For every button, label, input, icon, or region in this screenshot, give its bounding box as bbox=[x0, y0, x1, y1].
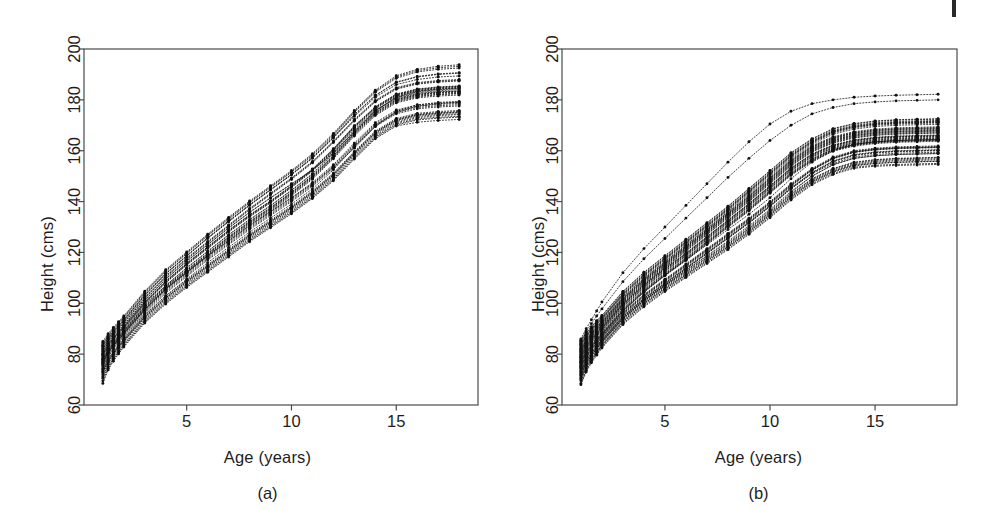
svg-text:10: 10 bbox=[282, 412, 300, 430]
panel-b-y-axis-label: Height (cms) bbox=[529, 216, 548, 312]
svg-text:100: 100 bbox=[65, 290, 83, 318]
panel-a-plot: 608010012014016018020051015 bbox=[0, 0, 491, 524]
series-group bbox=[579, 93, 939, 386]
panel-a-x-axis-label: Age (years) bbox=[0, 448, 491, 467]
svg-text:80: 80 bbox=[543, 345, 561, 363]
panel-a: 608010012014016018020051015 Height (cms)… bbox=[0, 0, 491, 524]
svg-text:200: 200 bbox=[543, 35, 561, 63]
panel-b-plot: 608010012014016018020051015 bbox=[491, 0, 983, 524]
svg-text:200: 200 bbox=[65, 35, 83, 63]
series-group bbox=[101, 63, 460, 385]
svg-text:60: 60 bbox=[65, 396, 83, 414]
svg-text:5: 5 bbox=[660, 412, 669, 430]
svg-text:120: 120 bbox=[65, 239, 83, 267]
svg-text:15: 15 bbox=[866, 412, 884, 430]
svg-text:80: 80 bbox=[65, 345, 83, 363]
panel-b-caption: (b) bbox=[491, 484, 982, 503]
svg-text:160: 160 bbox=[543, 137, 561, 165]
growth-curves-figure: 608010012014016018020051015 Height (cms)… bbox=[0, 0, 983, 524]
panel-b-x-axis-label: Age (years) bbox=[491, 448, 982, 467]
panel-a-caption: (a) bbox=[0, 484, 491, 503]
svg-text:15: 15 bbox=[387, 412, 405, 430]
svg-text:160: 160 bbox=[65, 137, 83, 165]
svg-text:60: 60 bbox=[543, 396, 561, 414]
svg-text:180: 180 bbox=[65, 86, 83, 114]
page-edge-mark bbox=[952, 0, 956, 17]
svg-text:140: 140 bbox=[543, 188, 561, 216]
panel-b: 608010012014016018020051015 Height (cms)… bbox=[491, 0, 982, 524]
svg-text:140: 140 bbox=[65, 188, 83, 216]
svg-text:10: 10 bbox=[761, 412, 779, 430]
svg-text:180: 180 bbox=[543, 86, 561, 114]
panel-a-y-axis-label: Height (cms) bbox=[38, 216, 57, 312]
svg-text:5: 5 bbox=[182, 412, 191, 430]
